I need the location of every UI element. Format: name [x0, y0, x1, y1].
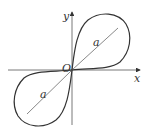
segment-label-upper: a — [93, 36, 100, 49]
y-axis-label: y — [62, 10, 70, 23]
x-axis-label: x — [134, 72, 141, 85]
origin-label: O — [62, 62, 71, 75]
lemniscate-diagram: y x O a a — [0, 0, 153, 138]
segment-lower — [27, 70, 72, 114]
upper-lobe-curve — [72, 14, 130, 70]
segment-label-lower: a — [40, 88, 47, 101]
